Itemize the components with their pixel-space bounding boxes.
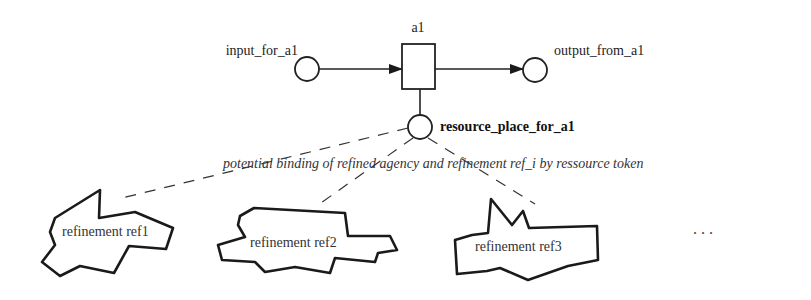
binding-annotation: potential binding of refined agency and … xyxy=(222,156,643,171)
resource-place[interactable] xyxy=(408,115,432,139)
transition-a1[interactable] xyxy=(402,44,435,89)
output-place[interactable] xyxy=(523,58,547,82)
binding-line-ref2 xyxy=(318,138,413,205)
input-place[interactable] xyxy=(295,57,319,81)
refinement-ref3[interactable]: refinement ref3 xyxy=(455,199,598,280)
refinement-ref1-label: refinement ref1 xyxy=(62,224,149,239)
refinement-ref1[interactable]: refinement ref1 xyxy=(42,190,173,276)
transition-label: a1 xyxy=(411,20,424,35)
refinement-ref3-label: refinement ref3 xyxy=(475,239,562,254)
refinement-ref2[interactable]: refinement ref2 xyxy=(218,208,397,273)
more-refinements-ellipsis: ... xyxy=(693,220,717,237)
output-place-label: output_from_a1 xyxy=(554,43,644,58)
refinement-ref2-label: refinement ref2 xyxy=(250,235,337,250)
input-place-label: input_for_a1 xyxy=(226,43,298,58)
petri-net-diagram: a1 input_for_a1 output_from_a1 resource_… xyxy=(0,0,811,300)
binding-line-ref3 xyxy=(428,138,535,204)
resource-place-label: resource_place_for_a1 xyxy=(440,119,575,134)
